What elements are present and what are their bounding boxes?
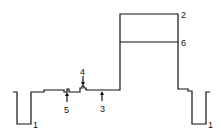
label-4: 4 [80,67,85,77]
label-2: 2 [181,10,186,20]
profile-diagram: 1 1 2 6 3 5 4 [0,0,221,139]
profile-outline [13,14,210,124]
label-5: 5 [64,105,69,115]
arrowhead-3 [100,91,104,95]
label-3: 3 [100,104,105,114]
label-6: 6 [181,38,186,48]
label-1-right: 1 [208,120,213,130]
label-1-left: 1 [33,120,38,130]
